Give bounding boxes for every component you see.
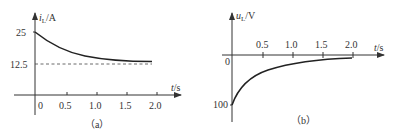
x-tick-label-0-5: 0.5 — [59, 100, 72, 111]
chart-b: uL/V 0 100 0.5 1.0 1.5 2.0 t/s （b） — [213, 10, 384, 126]
caption-b: （b） — [291, 115, 316, 126]
x-tick-label-2-0: 2.0 — [149, 100, 162, 111]
x-tick-label-1-0-b: 1.0 — [285, 39, 298, 50]
x-tick-label-1-5: 1.5 — [119, 100, 132, 111]
x-tick-label-1-0: 1.0 — [89, 100, 102, 111]
y-tick-label-100: 100 — [213, 99, 228, 110]
x-axis-label-b: t/s — [374, 42, 384, 53]
y-tick-label-25: 25 — [16, 27, 26, 38]
caption-a: （a） — [85, 119, 109, 130]
x-tick-label-2-0-b: 2.0 — [345, 39, 358, 50]
y-axis-label-b: uL/V — [236, 10, 256, 23]
figure-canvas: iL/A 25 12.5 0 0.5 1.0 1.5 2.0 t/s （a） — [0, 0, 396, 137]
x-axis-label-a: t/s — [171, 82, 181, 93]
x-tick-label-1-5-b: 1.5 — [315, 39, 328, 50]
decay-curve-a — [35, 32, 152, 62]
y-tick-label-12-5: 12.5 — [10, 59, 28, 70]
x-tick-label-0: 0 — [38, 100, 43, 111]
y-tick-label-0: 0 — [225, 56, 230, 67]
rise-curve-b — [232, 58, 352, 105]
y-axis-label-a: iL/A — [39, 12, 57, 25]
x-tick-label-0-5-b: 0.5 — [256, 39, 269, 50]
chart-a: iL/A 25 12.5 0 0.5 1.0 1.5 2.0 t/s （a） — [10, 12, 181, 130]
